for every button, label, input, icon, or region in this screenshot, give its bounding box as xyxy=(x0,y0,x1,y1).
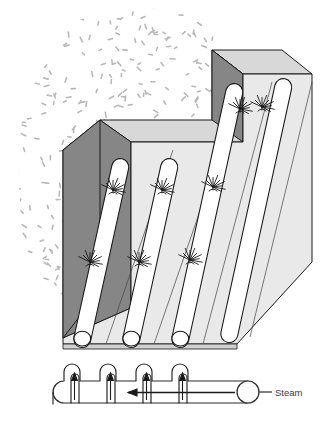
steam-pipe-diagram-svg: Steam xyxy=(0,0,324,425)
steam-label: Steam xyxy=(275,387,303,398)
flow-arrow-group xyxy=(72,373,235,400)
steam-manifold xyxy=(53,364,259,404)
figure-root: Steam xyxy=(0,0,324,425)
